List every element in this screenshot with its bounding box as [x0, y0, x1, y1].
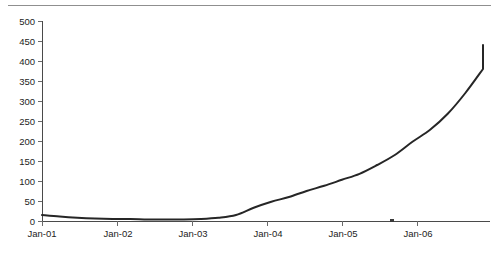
x-tick-label: Jan-06 — [403, 228, 432, 239]
y-axis-tick-labels: 500 450 400 350 300 250 200 150 100 50 0 — [19, 16, 35, 227]
line-chart-figure: 500 450 400 350 300 250 200 150 100 50 0… — [0, 0, 496, 254]
x-tick-label: Jan-02 — [103, 228, 132, 239]
data-series-line — [42, 45, 483, 219]
y-tick-label: 450 — [19, 36, 35, 47]
y-tick-label: 200 — [19, 136, 35, 147]
x-tick-label: Jan-05 — [328, 228, 357, 239]
y-tick-label: 50 — [24, 196, 35, 207]
y-tick-label: 250 — [19, 116, 35, 127]
chart-canvas: 500 450 400 350 300 250 200 150 100 50 0… — [0, 0, 496, 254]
y-tick-label: 300 — [19, 96, 35, 107]
y-tick-label: 500 — [19, 16, 35, 27]
y-tick-label: 0 — [30, 216, 35, 227]
y-axis-ticks — [38, 22, 42, 222]
x-axis-tick-labels: Jan-01 Jan-02 Jan-03 Jan-04 Jan-05 Jan-0… — [27, 228, 432, 239]
y-tick-label: 400 — [19, 56, 35, 67]
y-tick-label: 150 — [19, 156, 35, 167]
y-tick-label: 350 — [19, 76, 35, 87]
x-tick-label: Jan-04 — [253, 228, 282, 239]
x-tick-label: Jan-03 — [178, 228, 207, 239]
x-tick-label: Jan-01 — [27, 228, 56, 239]
print-artifact-speck — [390, 219, 394, 222]
y-tick-label: 100 — [19, 176, 35, 187]
